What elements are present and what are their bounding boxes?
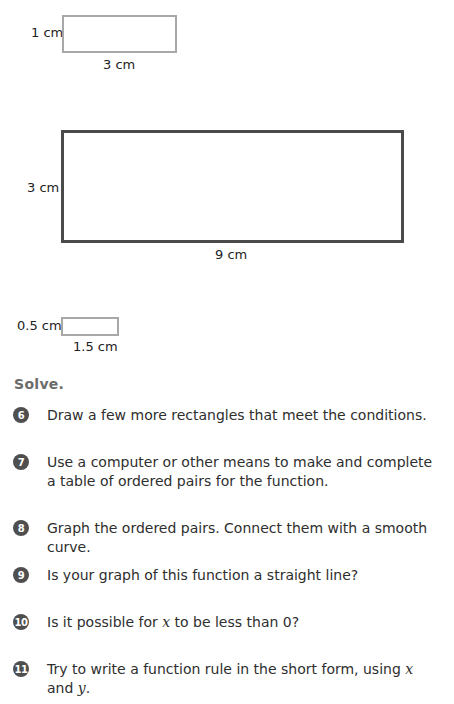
question-text: Try to write a function rule in the shor…	[47, 660, 443, 698]
text-segment: and	[47, 680, 78, 696]
text-segment: Try to write a function rule in the shor…	[47, 661, 405, 677]
number-badge-icon: 8	[13, 520, 29, 536]
rect3-height-label: 0.5 cm	[17, 318, 62, 333]
variable-x: x	[162, 614, 170, 630]
question-text: Is it possible for x to be less than 0?	[47, 613, 299, 632]
question-8: 8 Graph the ordered pairs. Connect them …	[13, 519, 443, 557]
rect2-width-label: 9 cm	[215, 247, 247, 262]
question-10: 10 Is it possible for x to be less than …	[13, 613, 443, 632]
rect1-height-label: 1 cm	[31, 25, 63, 40]
number-badge-icon: 11	[13, 661, 29, 677]
number-badge-icon: 10	[13, 614, 29, 630]
text-segment: to be less than 0?	[170, 614, 299, 630]
rect3-width-label: 1.5 cm	[73, 339, 118, 354]
question-text: Graph the ordered pairs. Connect them wi…	[47, 519, 443, 557]
variable-x: x	[405, 661, 413, 677]
number-badge-icon: 9	[13, 567, 29, 583]
question-text: Draw a few more rectangles that meet the…	[47, 406, 427, 425]
question-11: 11 Try to write a function rule in the s…	[13, 660, 443, 698]
rectangle-3x9	[61, 130, 404, 243]
question-9: 9 Is your graph of this function a strai…	[13, 566, 443, 585]
rectangle-0.5x1.5	[61, 317, 119, 336]
question-text: Is your graph of this function a straigh…	[47, 566, 358, 585]
variable-y: y	[78, 680, 86, 696]
text-segment: Is it possible for	[47, 614, 162, 630]
text-segment: .	[86, 680, 90, 696]
rect2-height-label: 3 cm	[27, 180, 59, 195]
rect1-width-label: 3 cm	[103, 57, 135, 72]
rectangle-1x3	[62, 15, 177, 53]
number-badge-icon: 6	[13, 407, 29, 423]
number-badge-icon: 7	[13, 454, 29, 470]
question-7: 7 Use a computer or other means to make …	[13, 453, 443, 491]
question-text: Use a computer or other means to make an…	[47, 453, 442, 491]
question-6: 6 Draw a few more rectangles that meet t…	[13, 406, 443, 425]
section-heading: Solve.	[14, 376, 64, 392]
